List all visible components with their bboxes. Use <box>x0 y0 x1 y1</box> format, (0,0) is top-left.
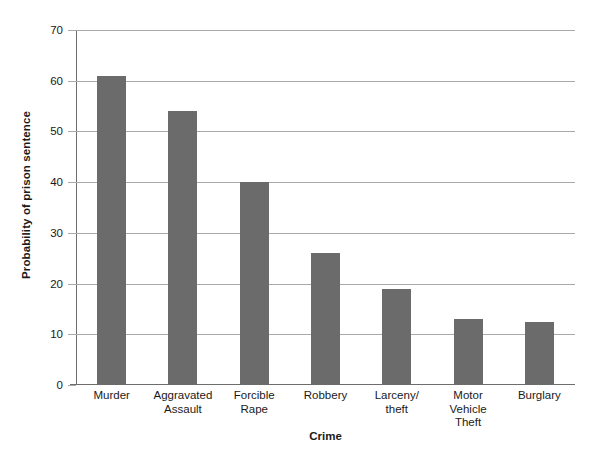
bars-layer <box>76 30 575 385</box>
bar <box>382 289 411 385</box>
x-axis-category-label-line: Rape <box>212 403 296 417</box>
y-axis-tick-label: 30 <box>50 227 63 239</box>
y-axis-tick-label: 20 <box>50 278 63 290</box>
plot-area: 010203040506070 <box>76 30 575 385</box>
bar <box>168 111 197 385</box>
x-axis-category-label-line: Vehicle <box>426 403 510 417</box>
x-axis-category-label: Burglary <box>497 389 581 403</box>
x-axis-category-label-line: Burglary <box>497 389 581 403</box>
y-axis-tick-label: 40 <box>50 176 63 188</box>
y-axis-title-text: Probability of prison sentence <box>20 111 32 279</box>
y-axis-tick-mark <box>68 131 76 132</box>
y-axis-tick-label: 60 <box>50 75 63 87</box>
bar-chart: Probability of prison sentence 010203040… <box>0 0 605 458</box>
y-axis-tick-mark <box>68 81 76 82</box>
bar <box>311 253 340 385</box>
y-axis-tick-mark <box>68 385 76 386</box>
y-axis-tick-label: 50 <box>50 125 63 137</box>
x-axis-category-label-line: Theft <box>426 416 510 430</box>
bar <box>454 319 483 385</box>
bar <box>525 322 554 385</box>
y-axis-tick-label: 70 <box>50 24 63 36</box>
y-axis-tick-label: 10 <box>50 328 63 340</box>
bar <box>97 76 126 385</box>
bar <box>240 182 269 385</box>
y-axis-tick-mark <box>68 233 76 234</box>
y-axis-title: Probability of prison sentence <box>16 0 36 390</box>
y-axis-tick-mark <box>68 334 76 335</box>
y-axis-tick-mark <box>68 182 76 183</box>
y-axis-tick-label: 0 <box>57 379 63 391</box>
y-axis-tick-mark <box>68 30 76 31</box>
y-axis-tick-mark <box>68 284 76 285</box>
x-axis-title: Crime <box>76 430 575 442</box>
